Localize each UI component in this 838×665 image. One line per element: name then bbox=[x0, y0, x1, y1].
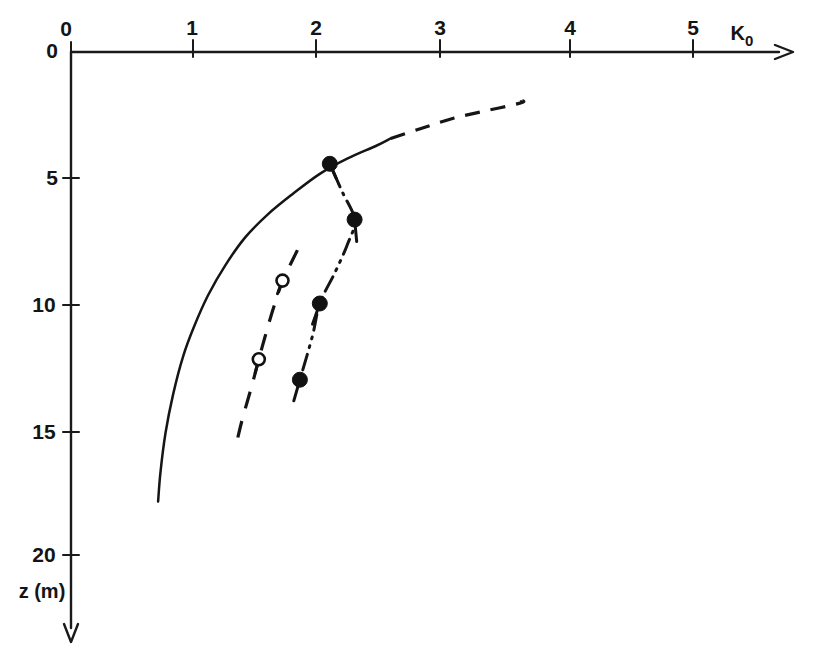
curve-series-b-dashdot bbox=[300, 164, 355, 380]
y-origin-label: 0 bbox=[46, 39, 58, 62]
x-tick-label-2: 2 bbox=[310, 16, 322, 39]
y-tick-label-10: 10 bbox=[32, 293, 55, 316]
y-tick-label-5: 5 bbox=[46, 166, 58, 189]
x-tick-label-0: 0 bbox=[60, 17, 72, 40]
data-point-filled bbox=[292, 372, 307, 387]
data-point-filled bbox=[347, 212, 362, 227]
x-axis-label-subscript: 0 bbox=[745, 32, 753, 49]
y-axis-group: 0 5 10 15 20 z (m) bbox=[19, 39, 79, 642]
x-axis-label-main: K bbox=[731, 22, 746, 44]
x-tick-label-5: 5 bbox=[687, 16, 699, 39]
data-point-filled bbox=[322, 156, 337, 171]
y-axis-label: z (m) bbox=[19, 580, 66, 602]
curve-k0-profile-dashed bbox=[391, 100, 524, 138]
x-axis-label: K0 bbox=[731, 22, 754, 49]
data-point-open bbox=[253, 353, 265, 365]
data-curves-group bbox=[158, 100, 524, 501]
x-tick-label-3: 3 bbox=[434, 16, 446, 39]
y-tick-label-20: 20 bbox=[32, 543, 55, 566]
x-tick-label-1: 1 bbox=[186, 16, 198, 39]
k0-depth-chart: 0 1 2 3 4 5 K0 0 5 10 15 20 z (m) bbox=[0, 0, 838, 665]
data-point-filled bbox=[312, 296, 327, 311]
y-tick-label-15: 15 bbox=[32, 420, 56, 443]
data-markers-group bbox=[253, 156, 362, 400]
data-point-open bbox=[277, 275, 289, 287]
curve-k0-profile-solid bbox=[158, 138, 391, 501]
x-axis-group: 0 1 2 3 4 5 K0 bbox=[60, 16, 793, 59]
x-tick-label-4: 4 bbox=[564, 16, 576, 39]
